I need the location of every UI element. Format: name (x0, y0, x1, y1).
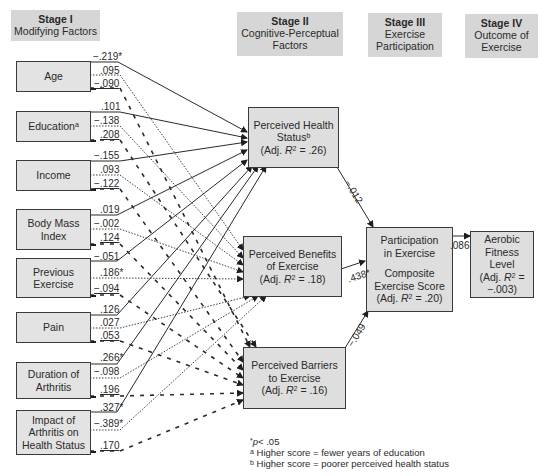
box-label-1: Aerobic (484, 233, 520, 245)
coef-income-health: −.155 (94, 151, 119, 161)
factor-impact-of-arthritis: Impact ofArthritis onHealth Status (16, 410, 91, 455)
r2-prefix: (Adj. (479, 271, 504, 283)
coef-age-benefits: .095 (100, 66, 119, 76)
box-label-1: Perceived Benefits (249, 248, 337, 260)
factor-label: Education (28, 120, 75, 132)
aerobic-fitness-box: Aerobic Fitness Level (Adj. R2 = −.003) (470, 231, 534, 298)
factor-label: Age (44, 70, 63, 83)
factor-education: Educationa (16, 111, 91, 142)
coef-bmi-benefits: −.002 (94, 219, 119, 229)
participation-box: Participation in Exercise Composite Exer… (366, 227, 453, 312)
r2-var: R (401, 292, 409, 304)
factor-label-2: Arthritis on (28, 426, 78, 438)
factor-label-1: Impact of (32, 414, 75, 426)
coef-bmi-barriers: .124 (100, 233, 119, 243)
box-label-1: Perceived Health (254, 119, 334, 131)
box-label-1: Participation (381, 234, 439, 246)
coef-impact-barriers: .170 (100, 441, 119, 451)
coef-income-barriers: −.122 (94, 179, 119, 189)
note-b-text: Higher score = poorer perceived health s… (254, 458, 449, 469)
coef-impact-benefits: −.389* (94, 419, 123, 429)
note-a: a Higher score = fewer years of educatio… (250, 447, 449, 458)
perceived-barriers-box: Perceived Barriers to Exercise (Adj. R2 … (243, 347, 346, 409)
r2-prefix: (Adj. (259, 273, 284, 285)
coef-participation-to-fitness: .086 (450, 241, 469, 251)
coef-duration-health: .266* (100, 353, 123, 363)
r2-var: R (504, 271, 512, 283)
coef-education-benefits: −.138 (94, 116, 119, 126)
perceived-health-status-box: Perceived Health Statusb (Adj. R2 = .26) (248, 107, 339, 168)
r2-value: = .26) (296, 144, 326, 156)
r2-prefix: (Adj. (260, 144, 285, 156)
coef-pain-barriers: .053 (100, 331, 119, 341)
factor-pain: Pain (16, 312, 91, 343)
note-a-text: Higher score = fewer years of education (254, 447, 425, 458)
note-significance: *p< .05 (250, 436, 449, 447)
r2-prefix: (Adj. (261, 384, 286, 396)
coef-pain-benefits: .027 (100, 318, 119, 328)
coef-age-health: −.219* (93, 52, 122, 62)
sig-rest: < .05 (258, 436, 279, 447)
box-label-2: Status (277, 131, 307, 143)
coef-duration-barriers: .196 (100, 385, 119, 395)
coef-previous-exercise-health: −.051 (94, 252, 119, 262)
box-label-1: Perceived Barriers (251, 359, 337, 371)
coef-bmi-health: .019 (100, 205, 119, 215)
factor-label: Income (36, 169, 70, 182)
factor-bmi: Body MassIndex (16, 209, 91, 250)
note-a-mark: a (250, 448, 254, 455)
coef-education-health: .101 (101, 102, 120, 112)
footnotes: *p< .05 a Higher score = fewer years of … (250, 436, 449, 469)
r2-value: = .16) (297, 384, 327, 396)
factor-previous-exercise: PreviousExercise (16, 258, 91, 298)
r2-value: = .20) (412, 292, 442, 304)
coef-previous-exercise-barriers: −.094 (94, 284, 119, 294)
note-b: b Higher score = poorer perceived health… (250, 458, 449, 469)
factor-duration-of-arthritis: Duration ofArthritis (16, 362, 91, 399)
r2-value-2: −.003) (487, 283, 517, 295)
r2-var: R (285, 144, 293, 156)
coef-duration-benefits: −.098 (94, 367, 119, 377)
factor-label-2: Arthritis (36, 381, 72, 393)
factor-label-3: Health Status (22, 439, 85, 451)
factor-label: Pain (43, 321, 64, 334)
coef-age-barriers: −.090 (94, 79, 119, 89)
factor-label-2: Exercise (33, 278, 73, 290)
box-label-2: of Exercise (267, 260, 319, 272)
factor-label-2: Index (41, 230, 67, 242)
box-label-2: in Exercise (384, 247, 435, 259)
factor-income: Income (16, 160, 91, 191)
footnote-marker: b (306, 132, 310, 139)
factor-label-1: Previous (33, 266, 74, 278)
r2-var: R (286, 384, 294, 396)
r2-prefix: (Adj. (376, 292, 401, 304)
box-label-2: Fitness (485, 246, 519, 258)
note-b-mark: b (250, 459, 254, 466)
box-label-4: Exercise Score (374, 280, 445, 292)
footnote-marker: a (75, 121, 79, 128)
r2-var: R (284, 273, 292, 285)
box-label-2: to Exercise (269, 372, 321, 384)
r2-value: = .18) (295, 273, 325, 285)
box-label-3: Composite (384, 267, 434, 279)
coef-income-benefits: .093 (100, 165, 119, 175)
factor-label-1: Body Mass (28, 217, 80, 229)
box-label-3: Level (489, 258, 514, 270)
factor-label-1: Duration of (28, 368, 79, 380)
factor-age: Age (16, 61, 91, 92)
r2-value: = (515, 271, 524, 283)
coef-pain-health: .126 (100, 305, 119, 315)
coef-previous-exercise-benefits: .186* (100, 268, 123, 278)
coef-education-barriers: .208 (100, 130, 119, 140)
perceived-benefits-box: Perceived Benefits of Exercise (Adj. R2 … (243, 236, 342, 297)
coef-impact-health: .327* (100, 403, 123, 413)
